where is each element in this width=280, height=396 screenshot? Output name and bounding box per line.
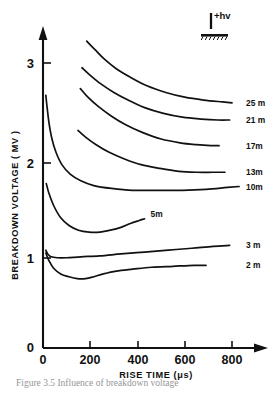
series-label-13m: 13m [246,167,263,177]
curve-25m [87,41,232,103]
series-label-25m: 25 m [246,98,265,108]
x-ticklabel-800: 800 [222,353,243,367]
series-label-5m: 5m [151,209,163,219]
x-ticklabel-200: 200 [80,353,101,367]
series-label-10m: 10m [246,182,263,192]
y-axis-arrowhead [39,26,48,40]
figure-container: 3 2 1 0 0 200 400 600 800 RISE TIME (μs)… [0,0,280,396]
x-ticklabel-400: 400 [128,353,149,367]
y-ticklabel-0: 0 [27,340,34,355]
inset-hv-label: +hv [214,10,231,21]
x-ticklabel-600: 600 [175,353,196,367]
x-ticklabel-0: 0 [40,353,47,367]
series-label-3m: 3 m [246,240,260,250]
series-labels-group: 25 m21 m17m13m10m5m3 m2 m [151,98,266,270]
x-axis-arrowhead [254,344,268,353]
y-ticklabels-group: 3 2 1 0 [27,56,34,355]
series-label-17m: 17m [246,141,263,151]
y-ticklabel-1: 1 [27,251,34,266]
breakdown-voltage-chart: 3 2 1 0 0 200 400 600 800 RISE TIME (μs)… [0,0,280,396]
inset-electrode-diagram: +hv [201,10,231,40]
y-ticklabel-2: 2 [27,156,34,171]
curve-3m [46,245,230,257]
figure-caption: Figure 3.5 Influence of breakdown voltag… [16,378,266,388]
ground-hatch-icon [201,34,228,40]
y-ticks-group [43,63,51,258]
x-ticklabels-group: 0 200 400 600 800 [40,353,243,367]
y-ticklabel-3: 3 [27,56,34,71]
series-label-2m: 2 m [246,260,260,270]
curve-10m [46,95,239,190]
axes-group [39,26,268,352]
series-label-21m: 21 m [246,115,265,125]
curve-17m [80,89,219,146]
y-axis-title: BREAKDOWN VOLTAGE ( MV ) [10,130,20,279]
curve-21m [82,68,230,120]
curves-group [46,41,239,279]
